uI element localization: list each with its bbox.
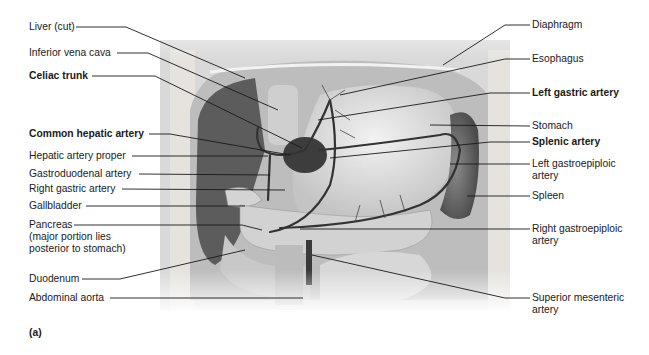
label-left-gastric-artery: Left gastric artery bbox=[532, 87, 619, 99]
label-celiac-trunk: Celiac trunk bbox=[29, 70, 88, 82]
label-left-gastroepiploic-artery-2: artery bbox=[532, 170, 558, 182]
label-splenic-artery: Splenic artery bbox=[532, 136, 600, 148]
label-pancreas-note-1: (major portion lies bbox=[29, 231, 111, 243]
label-abdominal-aorta: Abdominal aorta bbox=[29, 292, 104, 304]
label-stomach: Stomach bbox=[532, 120, 573, 132]
label-superior-mesenteric-artery-2: artery bbox=[532, 304, 558, 316]
label-gallbladder: Gallbladder bbox=[29, 200, 82, 212]
label-gastroduodenal-artery: Gastroduodenal artery bbox=[29, 168, 131, 180]
label-hepatic-artery-proper: Hepatic artery proper bbox=[29, 150, 126, 162]
label-right-gastroepiploic-artery-1: Right gastroepiploic bbox=[532, 223, 622, 235]
label-pancreas: Pancreas bbox=[29, 219, 73, 231]
label-diaphragm: Diaphragm bbox=[532, 19, 582, 31]
figure-panel-tag: (a) bbox=[29, 327, 42, 338]
label-superior-mesenteric-artery-1: Superior mesenteric bbox=[532, 292, 624, 304]
label-right-gastric-artery: Right gastric artery bbox=[29, 183, 115, 195]
label-pancreas-note-2: posterior to stomach) bbox=[29, 243, 126, 255]
label-inferior-vena-cava: Inferior vena cava bbox=[29, 47, 111, 59]
label-left-gastroepiploic-artery-1: Left gastroepiploic bbox=[532, 158, 616, 170]
label-duodenum: Duodenum bbox=[29, 273, 79, 285]
label-spleen: Spleen bbox=[532, 190, 564, 202]
label-right-gastroepiploic-artery-2: artery bbox=[532, 235, 558, 247]
label-common-hepatic-artery: Common hepatic artery bbox=[29, 128, 144, 140]
label-liver-cut: Liver (cut) bbox=[29, 21, 75, 33]
inferior-vena-cava bbox=[268, 85, 298, 145]
label-esophagus: Esophagus bbox=[532, 53, 584, 65]
